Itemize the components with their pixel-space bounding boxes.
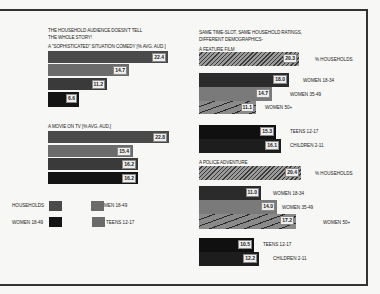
police-label-w3549: WOMEN 35-49 xyxy=(282,205,313,211)
movie-bar-teens: 16.2 xyxy=(48,158,138,170)
left-title-line1: THE HOUSEHOLD AUDIENCE DOESN'T TELL xyxy=(48,28,142,34)
bar-value: 6.6 xyxy=(66,94,77,103)
bar-value: 16.1 xyxy=(265,141,279,150)
film-label-w3549: WOMEN 35-49 xyxy=(290,92,321,98)
right-title-line1: SAME TIME-SLOT, SAME HOUSEHOLD RATINGS, xyxy=(199,30,302,36)
legend-swatch-teens xyxy=(92,217,105,227)
film-bar-children: 16.1 xyxy=(199,139,281,153)
police-bar-households: 20.4 xyxy=(199,166,301,180)
police-label-w50: WOMEN 50+ xyxy=(323,220,350,226)
bar-value: 22.4 xyxy=(152,53,166,62)
movie-chart-title: A MOVIE ON TV [% AVG. AUD.] xyxy=(48,124,111,130)
police-bar-w3549: 14.0 xyxy=(199,200,277,214)
legend-swatch-households xyxy=(49,201,62,211)
police-label-children: CHILDREN 2-11 xyxy=(273,256,307,262)
bar-value: 14.7 xyxy=(113,66,127,75)
bar-value: 17.2 xyxy=(280,216,294,225)
film-label-teens: TEENS 12-17 xyxy=(290,129,318,135)
film-bar-teens: 15.3 xyxy=(199,125,276,139)
film-label-w50: WOMEN 50+ xyxy=(265,105,292,111)
police-label-teens: TEENS 12-17 xyxy=(263,242,291,248)
bar-value: 12.2 xyxy=(243,254,257,263)
police-label-households: % HOUSEHOLDS xyxy=(315,171,353,177)
legend-label-men: MEN 18-49 xyxy=(104,203,127,209)
bar-value: 10.5 xyxy=(238,240,252,249)
movie-bar-households: 22.8 xyxy=(48,131,169,143)
legend-swatch-women xyxy=(49,217,62,227)
movie-bar-women: 16.2 xyxy=(48,172,138,184)
police-label-w1834: WOMEN 18-34 xyxy=(273,191,304,197)
police-bar-w50: 17.2 xyxy=(199,214,296,229)
bar-value: 16.2 xyxy=(122,160,136,169)
film-bar-w3549: 14.7 xyxy=(199,87,272,101)
bar-value: 11.0 xyxy=(246,188,259,197)
film-bar-households: 20.3 xyxy=(199,52,299,66)
left-title-line2: THE WHOLE STORY! xyxy=(48,35,92,41)
film-bar-w1834: 18.0 xyxy=(199,73,289,87)
police-bar-w1834: 11.0 xyxy=(199,186,261,200)
right-title-line2: DIFFERENT DEMOGRAPHICS- xyxy=(199,37,263,43)
bar-value: 15.4 xyxy=(117,147,131,156)
bar-value: 11.2 xyxy=(92,80,105,89)
legend-label-households: HOUSEHOLDS xyxy=(12,203,44,209)
legend-label-women: WOMEN 18-49 xyxy=(12,220,43,226)
police-bar-children: 12.2 xyxy=(199,252,259,266)
bar-value: 14.7 xyxy=(256,89,270,98)
police-bar-teens: 10.5 xyxy=(199,238,254,252)
frame-top-rule xyxy=(0,9,368,11)
film-label-children: CHILDREN 2-11 xyxy=(290,143,324,149)
comedy-bar-teens: 11.2 xyxy=(48,78,107,90)
bar-value: 11.1 xyxy=(241,103,254,112)
comedy-bar-women: 6.6 xyxy=(48,92,79,107)
bar-value: 14.0 xyxy=(261,202,275,211)
legend-label-teens: TEENS 12-17 xyxy=(106,220,134,226)
movie-bar-men: 15.4 xyxy=(48,145,133,157)
bar-value: 22.8 xyxy=(153,133,167,142)
bar-value: 18.0 xyxy=(273,75,287,84)
film-label-households: % HOUSEHOLDS xyxy=(315,57,353,63)
film-label-w1834: WOMEN 18-34 xyxy=(303,78,334,84)
frame-bottom-rule xyxy=(0,284,368,286)
frame-right-rule xyxy=(366,9,368,285)
comedy-chart-title: A "SOPHISTICATED" SITUATION COMEDY [% AV… xyxy=(48,44,166,50)
legend-swatch-men xyxy=(91,201,104,211)
bar-value: 16.2 xyxy=(122,174,136,183)
film-bar-w50: 11.1 xyxy=(199,101,256,114)
bar-value: 20.3 xyxy=(283,54,297,63)
bar-value: 15.3 xyxy=(260,127,274,136)
comedy-bar-men: 14.7 xyxy=(48,64,129,76)
comedy-bar-households: 22.4 xyxy=(48,51,168,63)
bar-value: 20.4 xyxy=(285,168,299,177)
